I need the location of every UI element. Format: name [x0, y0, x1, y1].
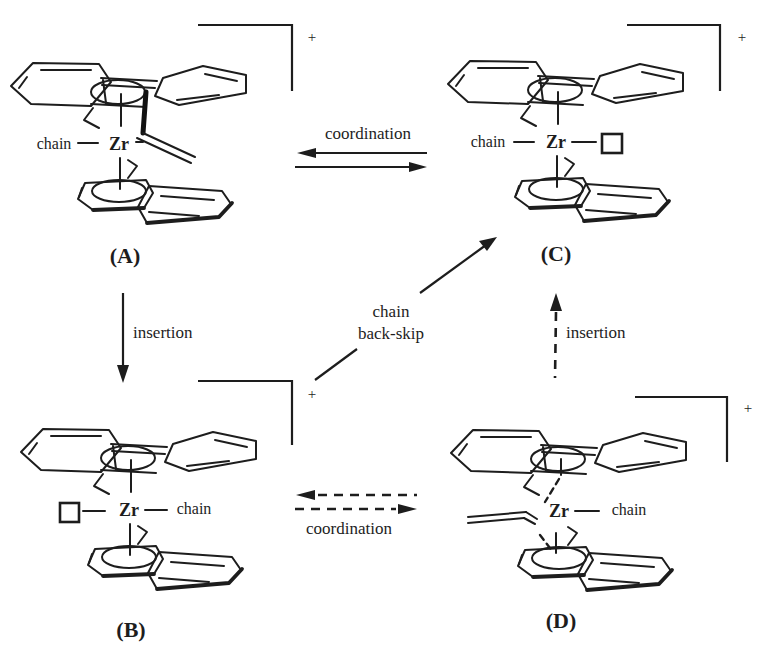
chain-back-skip-label-line2: back-skip: [358, 324, 424, 343]
chain-label: chain: [612, 501, 647, 518]
structure-B: chain Zr + (B): [21, 381, 316, 642]
zr-label: Zr: [546, 132, 566, 152]
arrowhead: [409, 162, 427, 172]
chain-label: chain: [37, 135, 72, 152]
arrowhead: [398, 504, 417, 514]
cation-bracket: [635, 397, 727, 462]
coordinated-alkene: [137, 133, 195, 163]
wedge-bond: [143, 92, 146, 133]
coordination-arrow-bottom: coordination: [295, 490, 417, 538]
structure-D: chain Zr + (D): [451, 397, 752, 633]
zr-label: Zr: [109, 134, 129, 154]
chain-back-skip-label-line1: chain: [373, 302, 410, 321]
zr-cp-dashed-bond-top: [545, 479, 559, 502]
insertion-arrow-left: insertion: [117, 293, 193, 383]
coordination-bottom-label: coordination: [306, 519, 392, 538]
zr-label: Zr: [119, 500, 139, 520]
arrowhead: [296, 490, 315, 500]
chain-back-skip-arrow: chain back-skip: [315, 237, 497, 380]
reaction-scheme: chain Zr + (A) chain Zr + (C): [0, 0, 777, 661]
arrowhead: [297, 148, 316, 158]
insertion-right-label: insertion: [566, 323, 626, 342]
reaction-scheme-figure: chain Zr + (A) chain Zr + (C): [0, 0, 777, 661]
coordinated-alkene: [468, 512, 537, 524]
structure-label: (A): [110, 243, 141, 268]
plus-charge: +: [308, 29, 316, 45]
cation-bracket: [198, 381, 292, 445]
plus-charge: +: [738, 29, 746, 45]
arrowhead: [550, 293, 562, 311]
coordination-top-label: coordination: [325, 124, 411, 143]
structure-label: (B): [116, 617, 145, 642]
structure-C: chain Zr + (C): [448, 25, 746, 266]
coordination-arrow-top: coordination: [295, 124, 427, 172]
chain-label: chain: [471, 133, 506, 150]
vacant-site-icon: [60, 503, 79, 522]
structure-A: chain Zr + (A): [11, 25, 316, 268]
zr-label: Zr: [549, 501, 569, 521]
plus-charge: +: [744, 400, 752, 416]
insertion-arrow-right: insertion: [550, 293, 626, 378]
insertion-left-label: insertion: [133, 323, 193, 342]
cation-bracket: [627, 25, 720, 91]
chain-label: chain: [177, 500, 212, 517]
plus-charge: +: [308, 386, 316, 402]
vacant-site-icon: [602, 134, 622, 153]
structure-label: (D): [546, 608, 577, 633]
arrowhead: [117, 365, 129, 383]
structure-label: (C): [541, 241, 572, 266]
